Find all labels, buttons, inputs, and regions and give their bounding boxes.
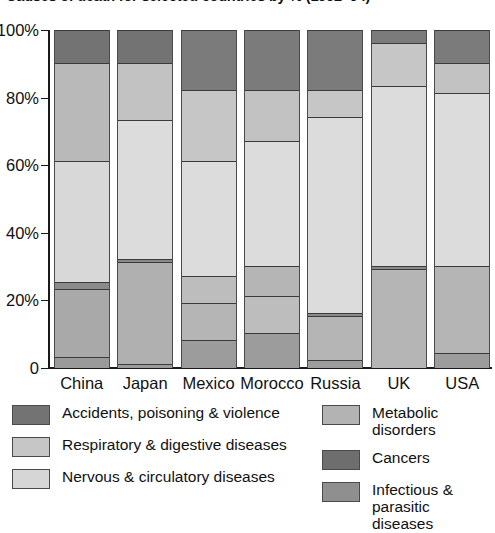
- legend-label: Metabolic disorders: [372, 404, 494, 438]
- y-axis-tick-label: 0: [30, 360, 39, 376]
- legend-label: Cancers: [372, 449, 430, 466]
- bar-segment[interactable]: [435, 354, 489, 368]
- bar-segment[interactable]: [118, 64, 172, 121]
- plot-area: [48, 30, 492, 368]
- y-axis-tick-label: 60%: [6, 157, 39, 173]
- bar-segment[interactable]: [372, 30, 426, 44]
- bar-segment[interactable]: [55, 30, 109, 64]
- legend-swatch: [322, 482, 360, 502]
- bar-morocco[interactable]: [244, 30, 300, 368]
- bar-segment[interactable]: [435, 64, 489, 94]
- bar-segment[interactable]: [308, 118, 362, 314]
- bar-segment[interactable]: [182, 277, 236, 304]
- bar-segment[interactable]: [308, 317, 362, 361]
- legend-item[interactable]: Infectious & parasitic diseases: [322, 481, 494, 532]
- bar-segment[interactable]: [308, 30, 362, 91]
- bar-segment[interactable]: [245, 334, 299, 368]
- bar-segment[interactable]: [55, 64, 109, 162]
- bar-segment[interactable]: [308, 91, 362, 118]
- bar-segment[interactable]: [435, 94, 489, 266]
- y-axis-tick: [41, 368, 48, 369]
- bar-segment[interactable]: [245, 297, 299, 334]
- chart-legend: Accidents, poisoning & violenceRespirato…: [0, 404, 495, 510]
- legend-swatch: [12, 469, 50, 489]
- bar-segment[interactable]: [245, 91, 299, 142]
- bar-segment[interactable]: [118, 30, 172, 64]
- bar-segment[interactable]: [182, 304, 236, 341]
- bar-segment[interactable]: [182, 30, 236, 91]
- x-axis-label-china: China: [47, 374, 117, 393]
- bar-segment[interactable]: [245, 30, 299, 91]
- bar-segment[interactable]: [55, 283, 109, 290]
- legend-item[interactable]: Metabolic disorders: [322, 404, 494, 438]
- bar-segment[interactable]: [435, 267, 489, 355]
- chart-title: Causes of death for selected countries b…: [6, 0, 486, 6]
- y-axis-labels: 100%80%60%40%20%0: [0, 30, 48, 368]
- x-axis-label-usa: USA: [427, 374, 495, 393]
- bar-segment[interactable]: [118, 121, 172, 260]
- y-axis-tick-label: 20%: [6, 292, 39, 308]
- bar-segment[interactable]: [182, 162, 236, 277]
- bar-segment[interactable]: [182, 341, 236, 368]
- legend-column-right: Metabolic disordersCancersInfectious & p…: [322, 404, 494, 533]
- legend-swatch: [12, 405, 50, 425]
- bar-segment[interactable]: [55, 162, 109, 284]
- x-axis-label-morocco: Morocco: [237, 374, 307, 393]
- bar-segment[interactable]: [372, 44, 426, 88]
- legend-swatch: [322, 450, 360, 470]
- bar-group: [50, 30, 492, 368]
- bar-uk[interactable]: [371, 30, 427, 368]
- bar-china[interactable]: [54, 30, 110, 368]
- bar-segment[interactable]: [118, 365, 172, 368]
- bar-segment[interactable]: [55, 358, 109, 368]
- x-axis-label-russia: Russia: [300, 374, 370, 393]
- legend-label: Respiratory & digestive diseases: [62, 436, 287, 453]
- y-axis-tick-label: 100%: [0, 22, 39, 38]
- bar-russia[interactable]: [307, 30, 363, 368]
- bar-segment[interactable]: [372, 87, 426, 266]
- legend-label: Nervous & circulatory diseases: [62, 468, 275, 485]
- legend-item[interactable]: Nervous & circulatory diseases: [12, 468, 312, 489]
- legend-swatch: [12, 437, 50, 457]
- bar-segment[interactable]: [55, 290, 109, 358]
- legend-label: Accidents, poisoning & violence: [62, 404, 280, 421]
- x-axis-label-mexico: Mexico: [174, 374, 244, 393]
- x-axis-label-uk: UK: [364, 374, 434, 393]
- bar-segment[interactable]: [372, 270, 426, 368]
- legend-column-left: Accidents, poisoning & violenceRespirato…: [12, 404, 312, 500]
- bar-usa[interactable]: [434, 30, 490, 368]
- legend-item[interactable]: Accidents, poisoning & violence: [12, 404, 312, 425]
- bar-mexico[interactable]: [181, 30, 237, 368]
- bar-segment[interactable]: [245, 267, 299, 297]
- y-axis-tick-label: 40%: [6, 225, 39, 241]
- bar-japan[interactable]: [117, 30, 173, 368]
- bar-segment[interactable]: [435, 30, 489, 64]
- y-axis-tick-label: 80%: [6, 90, 39, 106]
- legend-label: Infectious & parasitic diseases: [372, 481, 494, 532]
- bar-segment[interactable]: [245, 142, 299, 267]
- bar-segment[interactable]: [118, 263, 172, 364]
- legend-item[interactable]: Respiratory & digestive diseases: [12, 436, 312, 457]
- bar-segment[interactable]: [182, 91, 236, 162]
- x-axis-label-japan: Japan: [110, 374, 180, 393]
- bar-segment[interactable]: [308, 361, 362, 368]
- legend-item[interactable]: Cancers: [322, 449, 494, 470]
- legend-swatch: [322, 405, 360, 425]
